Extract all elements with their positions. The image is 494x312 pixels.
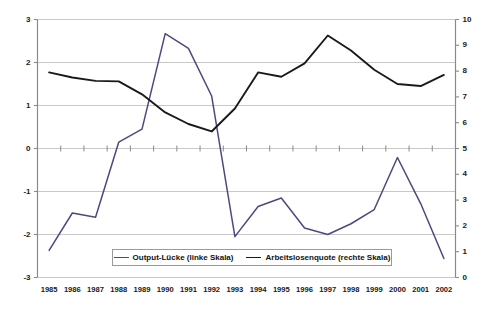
y-axis-right-tick-label: 8 xyxy=(463,67,485,75)
legend-label: Arbeitslosenquote (rechte Skala) xyxy=(265,254,390,262)
y-axis-right-tick-label: 3 xyxy=(463,196,485,204)
y-axis-right-tick-label: 1 xyxy=(463,248,485,256)
y-axis-left-tick-label: -1 xyxy=(9,188,31,196)
legend-item: Arbeitslosenquote (rechte Skala) xyxy=(246,254,390,262)
legend-item: Output-Lücke (linke Skala) xyxy=(114,254,234,262)
legend-line-swatch-icon xyxy=(114,257,129,258)
y-axis-right-tick-label: 6 xyxy=(463,119,485,127)
series-line-1 xyxy=(49,36,444,132)
legend-label: Output-Lücke (linke Skala) xyxy=(133,254,234,262)
y-axis-left-tick-label: 2 xyxy=(9,59,31,67)
y-axis-left-tick-label: -3 xyxy=(9,274,31,282)
y-axis-right-tick-label: 2 xyxy=(463,222,485,230)
legend-line-swatch-icon xyxy=(246,257,261,258)
y-axis-right-tick-label: 5 xyxy=(463,145,485,153)
y-axis-left-tick-label: 1 xyxy=(9,102,31,110)
y-axis-left-tick-label: 0 xyxy=(9,145,31,153)
y-axis-right-tick-label: 4 xyxy=(463,170,485,178)
x-axis-tick-label: 2002 xyxy=(428,286,460,294)
chart-legend: Output-Lücke (linke Skala)Arbeitslosenqu… xyxy=(112,249,392,266)
y-axis-right-tick-label: 9 xyxy=(463,41,485,49)
chart-container: 3210-1-2-3 109876543210 1985198619871988… xyxy=(0,0,494,312)
y-axis-left-tick-label: 3 xyxy=(9,16,31,24)
y-axis-right-tick-label: 0 xyxy=(463,274,485,282)
y-axis-left-tick-label: -2 xyxy=(9,231,31,239)
y-axis-right-tick-label: 10 xyxy=(463,16,485,24)
y-axis-right-tick-label: 7 xyxy=(463,93,485,101)
